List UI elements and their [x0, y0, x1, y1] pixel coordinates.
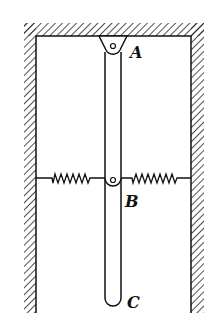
right-wall — [191, 23, 204, 313]
ceiling — [24, 23, 204, 36]
label-A: A — [128, 43, 142, 62]
pivot-A — [99, 36, 127, 54]
left-wall — [24, 23, 36, 313]
label-B: B — [124, 192, 139, 211]
pin-B — [97, 178, 128, 187]
left-spring — [36, 174, 97, 183]
right-spring — [128, 174, 191, 183]
rod-spring-diagram: A B C — [0, 0, 220, 333]
label-C: C — [127, 293, 140, 312]
